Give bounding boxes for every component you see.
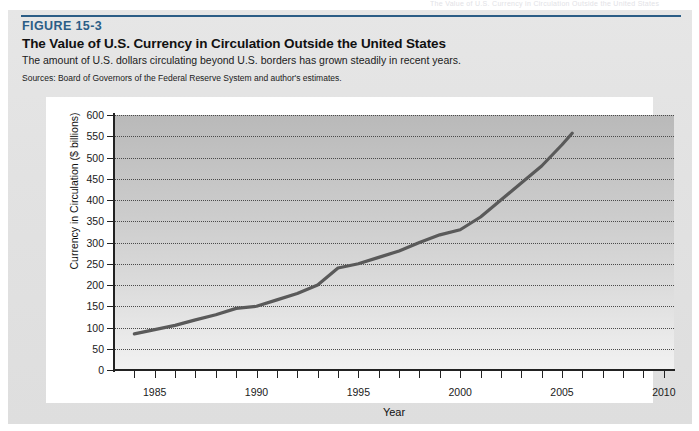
x-axis-tick	[297, 371, 298, 378]
x-axis-tick	[501, 371, 502, 378]
gridline	[114, 328, 674, 329]
y-axis-tick-label: 200	[58, 280, 104, 290]
y-axis-title: Currency in Circulation ($ billions)	[68, 81, 80, 301]
x-axis-tick	[277, 371, 278, 378]
x-axis-tick-label: 2000	[435, 386, 485, 398]
figure-label: FIGURE 15-3	[22, 19, 102, 33]
gridline	[114, 158, 674, 159]
y-axis-tick-label: 50	[58, 344, 104, 354]
y-axis-tick-label: 0	[58, 365, 104, 375]
x-axis-tick	[643, 371, 644, 378]
y-axis-tick	[107, 243, 114, 244]
x-axis-tick	[175, 371, 176, 378]
x-axis-title: Year	[113, 406, 675, 418]
x-axis-tick	[318, 371, 319, 378]
x-axis-tick-label: 1985	[130, 386, 180, 398]
x-axis-tick	[358, 371, 359, 378]
x-axis-tick-label: 2010	[639, 386, 689, 398]
x-axis-tick	[338, 371, 339, 378]
y-axis-tick	[107, 179, 114, 180]
plot-area	[114, 115, 674, 370]
y-axis-tick-label: 150	[58, 301, 104, 311]
y-axis-tick	[107, 328, 114, 329]
gridline	[114, 221, 674, 222]
y-axis-tick-label: 300	[58, 238, 104, 248]
x-axis-line	[113, 369, 675, 371]
x-axis-tick-label: 1990	[232, 386, 282, 398]
y-axis-tick	[107, 349, 114, 350]
gridline	[114, 243, 674, 244]
x-axis-tick	[195, 371, 196, 378]
y-axis-tick	[107, 264, 114, 265]
y-axis-tick-label: 100	[58, 323, 104, 333]
x-axis-tick	[603, 371, 604, 378]
y-axis-tick	[107, 306, 114, 307]
x-axis-tick	[623, 371, 624, 378]
x-axis-tick	[460, 371, 461, 378]
y-axis-tick-label: 600	[58, 110, 104, 120]
running-header: The Value of U.S. Currency in Circulatio…	[430, 0, 690, 9]
figure-top-rule	[21, 15, 681, 17]
y-axis-tick	[107, 136, 114, 137]
y-axis-tick	[107, 370, 114, 371]
x-axis-tick	[419, 371, 420, 378]
x-axis-tick-label: 2005	[537, 386, 587, 398]
gridline	[114, 349, 674, 350]
y-axis-tick-label: 400	[58, 195, 104, 205]
y-axis-tick	[107, 158, 114, 159]
x-axis-tick	[664, 371, 665, 378]
y-axis-tick	[107, 200, 114, 201]
figure-title: The Value of U.S. Currency in Circulatio…	[22, 36, 446, 51]
x-axis-tick	[440, 371, 441, 378]
x-axis-tick	[379, 371, 380, 378]
x-axis-tick	[582, 371, 583, 378]
gridline	[114, 285, 674, 286]
x-axis-tick	[257, 371, 258, 378]
gridline	[114, 115, 674, 116]
figure-page: The Value of U.S. Currency in Circulatio…	[0, 0, 699, 431]
x-axis-tick	[562, 371, 563, 378]
x-axis-tick	[399, 371, 400, 378]
figure-subtitle: The amount of U.S. dollars circulating b…	[22, 54, 461, 66]
x-axis-tick	[481, 371, 482, 378]
y-axis-tick-label: 550	[58, 131, 104, 141]
x-axis-tick	[134, 371, 135, 378]
x-axis-tick	[216, 371, 217, 378]
y-axis-tick-label: 450	[58, 174, 104, 184]
y-axis-tick-label: 500	[58, 153, 104, 163]
gridline	[114, 179, 674, 180]
x-axis-tick	[155, 371, 156, 378]
y-axis-tick-label: 250	[58, 259, 104, 269]
y-axis-tick	[107, 285, 114, 286]
x-axis-tick	[521, 371, 522, 378]
gridline	[114, 136, 674, 137]
y-axis-tick	[107, 221, 114, 222]
gridline	[114, 200, 674, 201]
y-axis-tick	[107, 115, 114, 116]
gridline	[114, 264, 674, 265]
gridline	[114, 306, 674, 307]
x-axis-tick	[236, 371, 237, 378]
x-axis-tick-label: 1995	[333, 386, 383, 398]
x-axis-tick	[542, 371, 543, 378]
y-axis-tick-label: 350	[58, 216, 104, 226]
